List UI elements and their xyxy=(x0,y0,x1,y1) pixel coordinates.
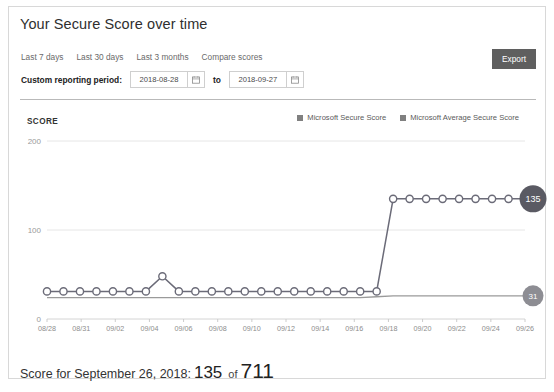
legend-item-average-secure-score: Microsoft Average Secure Score xyxy=(400,113,519,122)
footer-total-value: 711 xyxy=(241,359,274,383)
y-axis-title: SCORE xyxy=(27,117,58,126)
data-point-marker xyxy=(505,195,512,202)
series-line-0 xyxy=(47,199,525,292)
data-point-marker xyxy=(406,195,413,202)
score-badge-label: 135 xyxy=(525,194,540,204)
end-date-input[interactable]: 2018-09-27 xyxy=(230,72,286,87)
legend-label-average-secure-score: Microsoft Average Secure Score xyxy=(410,113,519,122)
x-axis-tick-label: 09/20 xyxy=(414,324,432,333)
data-point-marker xyxy=(175,288,182,295)
data-point-marker xyxy=(43,288,50,295)
x-axis-tick-label: 08/28 xyxy=(38,324,56,333)
x-axis-tick-label: 09/26 xyxy=(516,324,534,333)
legend-item-secure-score: Microsoft Secure Score xyxy=(297,113,386,122)
data-point-marker xyxy=(241,288,248,295)
y-axis-tick-label: 0 xyxy=(37,315,42,324)
data-point-marker xyxy=(208,288,215,295)
data-point-marker xyxy=(357,288,364,295)
secure-score-page: Your Secure Score over time Last 7 days … xyxy=(0,0,554,392)
footer-of-label: of xyxy=(228,368,237,380)
x-axis-tick-label: 09/10 xyxy=(243,324,261,333)
secure-score-card: Your Secure Score over time Last 7 days … xyxy=(8,6,546,379)
custom-reporting-period: Custom reporting period: 2018-08-28 to 2… xyxy=(21,71,304,88)
data-point-marker xyxy=(439,195,446,202)
data-point-marker xyxy=(423,195,430,202)
reporting-period-label: Custom reporting period: xyxy=(21,75,122,85)
chart-svg: 010020008/2808/3109/0209/0409/0609/0809/… xyxy=(9,7,547,380)
legend-swatch-average-secure-score xyxy=(400,115,406,121)
data-point-marker xyxy=(192,288,199,295)
end-date-calendar-button[interactable] xyxy=(286,72,303,87)
data-point-marker xyxy=(488,195,495,202)
data-point-marker xyxy=(76,288,83,295)
calendar-icon xyxy=(291,76,299,84)
data-point-marker xyxy=(109,288,116,295)
header-divider xyxy=(20,99,536,100)
data-point-marker xyxy=(455,195,462,202)
data-point-marker xyxy=(225,288,232,295)
start-date-input[interactable]: 2018-08-28 xyxy=(131,72,187,87)
average-badge-circle xyxy=(523,285,544,306)
data-point-marker xyxy=(324,288,331,295)
data-point-marker xyxy=(126,288,133,295)
x-axis-tick-label: 09/04 xyxy=(140,324,158,333)
x-axis-tick-label: 09/22 xyxy=(448,324,466,333)
range-tabs: Last 7 days Last 30 days Last 3 months C… xyxy=(21,52,262,62)
average-badge-label: 31 xyxy=(529,292,538,301)
start-date-calendar-button[interactable] xyxy=(187,72,204,87)
footer-prefix: Score for September 26, 2018: xyxy=(20,367,191,381)
tab-last-3-months[interactable]: Last 3 months xyxy=(136,52,188,62)
data-point-marker xyxy=(274,288,281,295)
x-axis-tick-label: 09/06 xyxy=(175,324,193,333)
footer-score-summary: Score for September 26, 2018: 135 of 711 xyxy=(20,359,274,383)
data-point-marker xyxy=(472,195,479,202)
chart-legend: Microsoft Secure Score Microsoft Average… xyxy=(297,113,519,122)
data-point-marker xyxy=(142,288,149,295)
score-badge-circle xyxy=(520,185,547,212)
data-point-marker xyxy=(373,288,380,295)
data-point-marker xyxy=(258,288,265,295)
x-axis-tick-label: 09/18 xyxy=(379,324,397,333)
tab-last-30-days[interactable]: Last 30 days xyxy=(76,52,123,62)
x-axis-tick-label: 09/08 xyxy=(209,324,227,333)
x-axis-tick-label: 09/24 xyxy=(482,324,500,333)
legend-swatch-secure-score xyxy=(297,115,303,121)
y-axis-tick-label: 100 xyxy=(28,226,42,235)
data-point-marker xyxy=(159,273,166,280)
x-axis-tick-label: 08/31 xyxy=(72,324,90,333)
start-date-group: 2018-08-28 xyxy=(130,71,205,88)
y-axis-tick-label: 200 xyxy=(28,137,42,146)
data-point-marker xyxy=(93,288,100,295)
tab-last-7-days[interactable]: Last 7 days xyxy=(21,52,63,62)
end-date-group: 2018-09-27 xyxy=(229,71,304,88)
data-point-marker xyxy=(291,288,298,295)
date-range-to-label: to xyxy=(213,75,221,85)
footer-score-value: 135 xyxy=(194,363,222,383)
tab-compare-scores[interactable]: Compare scores xyxy=(202,52,263,62)
data-point-marker xyxy=(307,288,314,295)
x-axis-tick-label: 09/16 xyxy=(345,324,363,333)
x-axis-tick-label: 09/12 xyxy=(277,324,295,333)
score-over-time-chart: 010020008/2808/3109/0209/0409/0609/0809/… xyxy=(9,7,547,380)
series-line-1 xyxy=(47,296,525,298)
calendar-icon xyxy=(192,76,200,84)
data-point-marker xyxy=(390,195,397,202)
data-point-marker xyxy=(521,195,528,202)
page-title: Your Secure Score over time xyxy=(20,16,208,32)
data-point-marker xyxy=(60,288,67,295)
export-button[interactable]: Export xyxy=(492,49,536,69)
data-point-marker xyxy=(340,288,347,295)
legend-label-secure-score: Microsoft Secure Score xyxy=(307,113,386,122)
x-axis-tick-label: 09/14 xyxy=(311,324,329,333)
x-axis-tick-label: 09/02 xyxy=(106,324,124,333)
